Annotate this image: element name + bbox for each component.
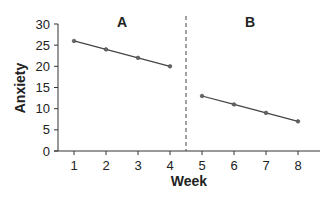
- y-tick-label: 15: [36, 80, 50, 95]
- x-tick-label: 8: [294, 158, 301, 173]
- data-point: [168, 65, 172, 69]
- series-line-B: [202, 96, 298, 121]
- x-tick-label: 2: [102, 158, 109, 173]
- y-axis-label: Anxiety: [12, 63, 28, 114]
- x-tick-label: 3: [134, 158, 141, 173]
- y-tick-label: 5: [43, 122, 50, 137]
- data-point: [104, 48, 108, 52]
- data-point: [232, 103, 236, 107]
- series-line-A: [74, 41, 170, 66]
- y-tick-label: 0: [43, 144, 50, 159]
- data-point: [296, 120, 300, 124]
- x-tick-label: 5: [198, 158, 205, 173]
- x-tick-label: 7: [262, 158, 269, 173]
- y-tick-label: 10: [36, 101, 50, 116]
- phase-label-A: A: [117, 14, 127, 30]
- line-chart: 05101520253012345678 ABWeekAnxiety: [0, 0, 326, 198]
- y-tick-label: 20: [36, 59, 50, 74]
- data-point: [264, 111, 268, 115]
- y-tick-label: 25: [36, 38, 50, 53]
- data-point: [72, 39, 76, 43]
- data-point: [200, 94, 204, 98]
- axes: 05101520253012345678: [36, 17, 320, 174]
- data-point: [136, 56, 140, 60]
- x-tick-label: 6: [230, 158, 237, 173]
- y-tick-label: 30: [36, 17, 50, 32]
- phase-label-B: B: [245, 14, 255, 30]
- x-tick-label: 1: [70, 158, 77, 173]
- x-axis-label: Week: [171, 173, 208, 189]
- x-tick-label: 4: [166, 158, 173, 173]
